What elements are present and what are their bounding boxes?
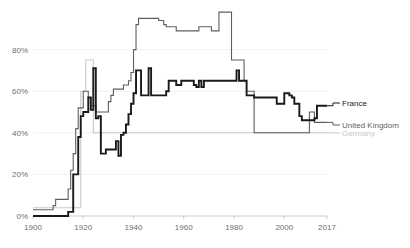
x-axis-tick-label: 2017	[318, 223, 336, 232]
line-chart: 0%20%40%60%80% 1900192019401960198020002…	[0, 0, 410, 248]
x-axis-tick-labels: 1900192019401960198020002017	[24, 223, 336, 232]
x-axis-tick-label: 1940	[125, 223, 143, 232]
x-axis-tick-label: 2000	[275, 223, 293, 232]
x-axis	[33, 216, 327, 219]
series-line-united-kingdom	[33, 12, 327, 210]
series-line-germany	[33, 60, 327, 208]
x-axis-tick-label: 1960	[175, 223, 193, 232]
series-layer	[33, 12, 327, 216]
x-axis-tick-label: 1900	[24, 223, 42, 232]
gridlines	[33, 50, 327, 175]
y-axis-tick-label: 40%	[12, 129, 28, 138]
y-axis-tick-label: 20%	[12, 170, 28, 179]
y-axis-tick-label: 80%	[12, 46, 28, 55]
y-axis-tick-labels: 0%20%40%60%80%	[12, 46, 28, 221]
series-line-france	[33, 68, 327, 216]
chart-legend: FranceUnited KingdomGermany	[327, 99, 399, 138]
legend-label-germany[interactable]: Germany	[342, 129, 375, 138]
x-axis-tick-label: 1920	[74, 223, 92, 232]
legend-leader-france	[327, 103, 340, 106]
chart-container: 0%20%40%60%80% 1900192019401960198020002…	[0, 0, 410, 248]
legend-leader-united-kingdom	[327, 122, 340, 125]
x-axis-tick-label: 1980	[225, 223, 243, 232]
legend-label-france[interactable]: France	[342, 99, 367, 108]
y-axis-tick-label: 60%	[12, 87, 28, 96]
y-axis-tick-label: 0%	[16, 212, 28, 221]
